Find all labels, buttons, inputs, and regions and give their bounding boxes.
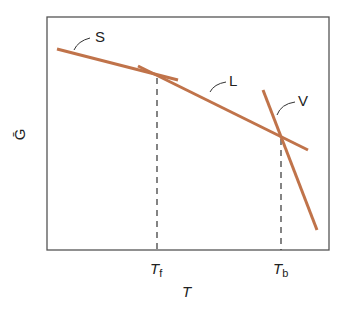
y-axis-label: Ḡ (11, 129, 28, 141)
tick-tb: Tb (273, 260, 288, 277)
plot-frame (47, 17, 329, 250)
solid-label: S (95, 28, 105, 45)
x-axis-label: T (182, 283, 191, 300)
liquid-label: L (229, 72, 237, 89)
v-leader (277, 102, 295, 115)
vapor-curve (263, 90, 317, 230)
vapor-label: V (298, 92, 308, 109)
l-leader (210, 82, 226, 92)
s-leader (74, 38, 90, 50)
diagram-canvas (0, 0, 344, 317)
tick-tf: Tf (150, 260, 162, 277)
